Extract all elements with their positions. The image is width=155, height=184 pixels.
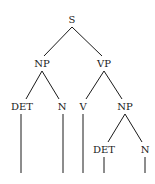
node-det2: DET <box>93 145 115 155</box>
node-s: S <box>69 15 76 25</box>
edge-np2-det <box>108 114 125 142</box>
edge-np2-n <box>125 114 142 142</box>
edge-np-n <box>42 71 59 99</box>
edge-np-det <box>26 71 42 99</box>
node-n: N <box>58 102 67 112</box>
node-vp: VP <box>97 59 111 69</box>
edge-vp-v <box>86 71 104 99</box>
edge-vp-np <box>104 71 122 99</box>
node-np2: NP <box>117 102 132 112</box>
node-det: DET <box>11 102 33 112</box>
node-n2: N <box>141 145 150 155</box>
node-v: V <box>79 102 86 112</box>
edge-s-vp <box>72 27 102 56</box>
tree-edges <box>0 0 155 184</box>
edge-s-np <box>44 27 72 56</box>
node-np: NP <box>34 59 49 69</box>
syntax-tree: S NP VP DET N V NP DET N <box>0 0 155 184</box>
